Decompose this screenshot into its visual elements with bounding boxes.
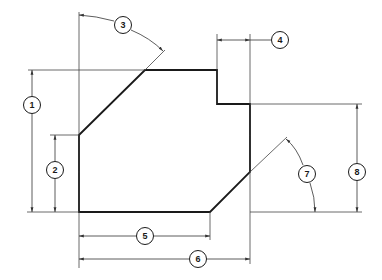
drawing-svg [0, 0, 382, 280]
technical-drawing: 1 2 3 4 5 6 7 8 [0, 0, 382, 280]
callout-4: 4 [271, 31, 289, 49]
extension-lines [27, 12, 362, 268]
callout-7: 7 [298, 165, 316, 183]
callout-8: 8 [348, 163, 366, 181]
callout-1: 1 [23, 96, 41, 114]
callout-5: 5 [136, 227, 154, 245]
callout-3: 3 [114, 16, 132, 34]
callout-2: 2 [46, 161, 64, 179]
part-outline [79, 70, 250, 212]
dimension-lines [32, 15, 357, 259]
callout-6: 6 [189, 250, 207, 268]
